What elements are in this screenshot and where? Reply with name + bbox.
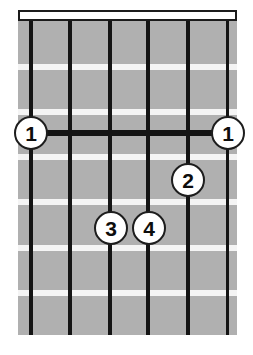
finger-marker-1-right[interactable]: 1: [211, 116, 245, 150]
string-g: [146, 10, 150, 335]
fret-line-5: [18, 245, 237, 251]
string-high-e: [226, 10, 229, 335]
fret-line-3: [18, 154, 237, 160]
string-d: [108, 10, 112, 335]
finger-marker-4[interactable]: 4: [132, 211, 166, 245]
string-low-e: [29, 10, 33, 335]
barre-fret-3: [29, 130, 229, 136]
finger-marker-3[interactable]: 3: [94, 211, 128, 245]
fret-line-1: [18, 64, 237, 70]
finger-marker-1-left[interactable]: 1: [14, 116, 48, 150]
fretboard: [18, 10, 237, 335]
nut: [18, 10, 237, 21]
fret-line-6: [18, 290, 237, 296]
fret-line-4: [18, 199, 237, 205]
finger-marker-2[interactable]: 2: [171, 163, 205, 197]
string-a: [68, 10, 72, 335]
chord-diagram: 1 1 2 3 4: [0, 0, 253, 355]
fret-line-2: [18, 109, 237, 115]
